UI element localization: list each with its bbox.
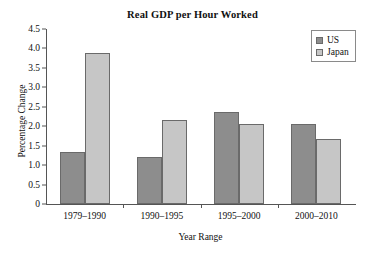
y-tick-mark: [42, 48, 46, 49]
x-tick-label: 1995–2000: [218, 211, 261, 221]
x-tick-mark: [123, 204, 124, 208]
x-tick-label: 1990–1995: [141, 211, 184, 221]
chart-legend: USJapan: [311, 30, 356, 62]
x-tick-mark: [278, 204, 279, 208]
y-tick-mark: [42, 106, 46, 107]
bar-japan-3: [316, 139, 341, 204]
bar-japan-2: [239, 124, 264, 205]
x-tick-label: 2000–2010: [295, 211, 338, 221]
plot-area: 00.51.01.52.02.53.03.54.04.51979–1990199…: [46, 29, 355, 204]
bar-us-0: [60, 152, 85, 205]
y-tick-mark: [42, 165, 46, 166]
legend-item-japan[interactable]: Japan: [316, 46, 349, 58]
y-tick-mark: [42, 87, 46, 88]
y-tick-mark: [42, 67, 46, 68]
legend-label: Japan: [327, 46, 349, 58]
y-tick-mark: [42, 184, 46, 185]
chart-figure: Real GDP per Hour Worked Percentage Chan…: [0, 0, 385, 256]
bar-us-1: [137, 157, 162, 204]
legend-swatch-icon: [316, 37, 323, 44]
y-tick-mark: [42, 126, 46, 127]
x-axis-label: Year Range: [46, 232, 355, 242]
y-tick-mark: [42, 204, 46, 205]
bar-japan-1: [162, 120, 187, 204]
bar-us-2: [214, 112, 239, 204]
legend-swatch-icon: [316, 49, 323, 56]
legend-label: US: [327, 34, 339, 46]
legend-item-us[interactable]: US: [316, 34, 349, 46]
y-axis-label: Percentage Change: [17, 51, 27, 191]
bar-japan-0: [85, 53, 110, 204]
y-tick-mark: [42, 29, 46, 30]
x-tick-label: 1979–1990: [63, 211, 106, 221]
y-tick-mark: [42, 145, 46, 146]
chart-title: Real GDP per Hour Worked: [0, 9, 385, 20]
bar-us-3: [291, 124, 316, 204]
x-tick-mark: [201, 204, 202, 208]
